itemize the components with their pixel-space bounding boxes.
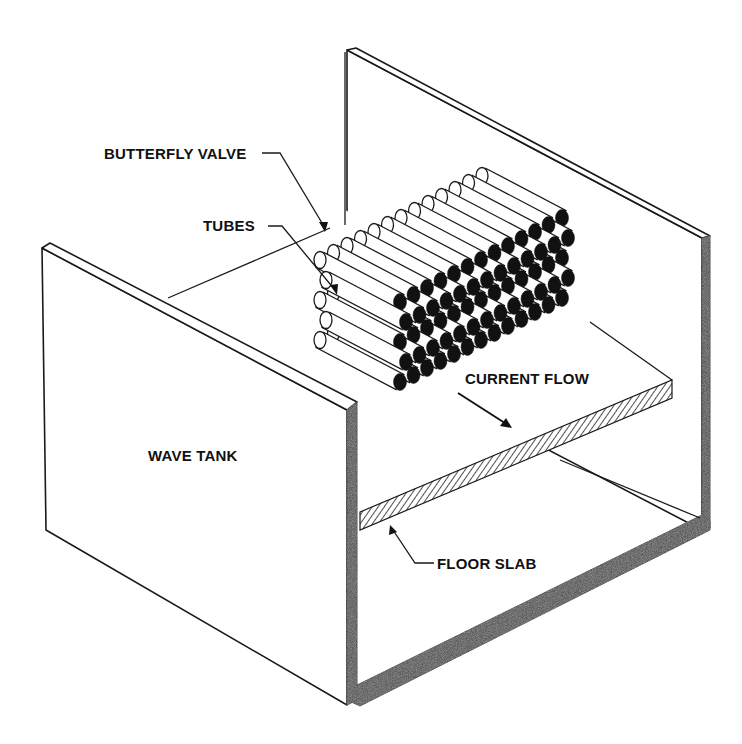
floor-slab-label: FLOOR SLAB [437, 555, 537, 572]
tubes-label: TUBES [203, 217, 255, 234]
current-flow-label: CURRENT FLOW [465, 370, 590, 387]
wave-tank-diagram: BUTTERFLY VALVE TUBES CURRENT FLOW WAVE … [0, 0, 742, 744]
wave-tank-label: WAVE TANK [148, 447, 238, 464]
butterfly-valve-label: BUTTERFLY VALVE [104, 145, 246, 162]
